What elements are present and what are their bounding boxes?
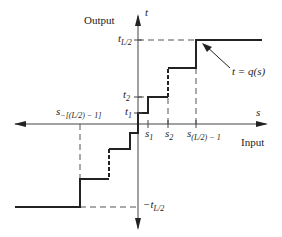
- annotation-arrow: [202, 43, 230, 68]
- vertical-axis-arrow-up-icon: [135, 14, 141, 26]
- horizontal-axis-arrow-left-icon: [14, 121, 26, 127]
- input-axis-label: Input: [241, 136, 264, 148]
- function-annotation: t = q(s): [232, 65, 265, 78]
- output-axis-label: Output: [84, 14, 115, 26]
- axes: [14, 14, 268, 230]
- tick-label-s-neg-last: s−[(L/2) − 1]: [56, 105, 101, 120]
- tick-label-s2: s2: [165, 127, 173, 142]
- tick-label-s-last: s(L/2) − 1: [187, 127, 221, 142]
- quantizer-diagram: Output t Input s tL/2 t2 t1 −tL/2 s1 s2 …: [0, 0, 282, 237]
- horizontal-axis-arrow-right-icon: [256, 121, 268, 127]
- vertical-axis-arrow-down-icon: [135, 218, 141, 230]
- tick-label-t-half: tL/2: [118, 32, 132, 47]
- s-axis-var-label: s: [256, 106, 260, 118]
- tick-label-s1: s1: [145, 127, 153, 142]
- tick-label-t1: t1: [125, 105, 132, 120]
- t-axis-var-label: t: [145, 6, 149, 18]
- tick-label-t2: t2: [123, 88, 130, 103]
- tick-label-neg-t-half: −tL/2: [143, 198, 164, 213]
